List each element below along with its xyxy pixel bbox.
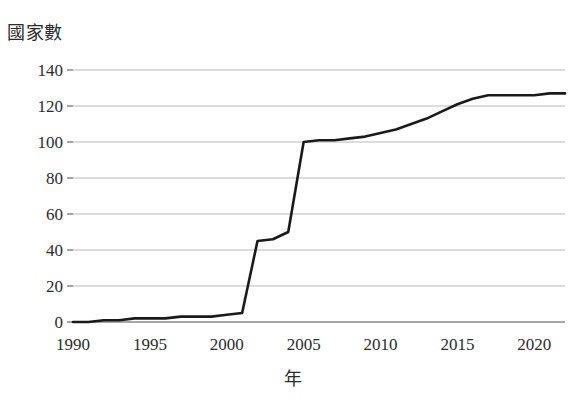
y-tick-label: 0 (11, 314, 63, 331)
x-tick-label: 2010 (341, 336, 421, 353)
x-tick-label: 1990 (33, 336, 113, 353)
x-tick-label: 2015 (417, 336, 497, 353)
line-chart-figure: 國家數 年 020406080100120140 199019952000200… (0, 0, 586, 407)
y-tick-label: 120 (11, 98, 63, 115)
chart-page: 國家數 年 020406080100120140 199019952000200… (0, 0, 586, 407)
y-tick-label: 20 (11, 278, 63, 295)
x-tick-label: 2005 (264, 336, 344, 353)
x-tick-label: 2000 (187, 336, 267, 353)
y-tick-label: 40 (11, 242, 63, 259)
y-tick-label: 100 (11, 134, 63, 151)
y-tick-label: 80 (11, 170, 63, 187)
x-tick-label: 2020 (494, 336, 574, 353)
x-axis-title: 年 (0, 370, 586, 388)
y-tick-label: 60 (11, 206, 63, 223)
y-tick-marks (67, 70, 73, 322)
data-series-line (73, 93, 565, 322)
y-tick-label: 140 (11, 62, 63, 79)
gridlines (73, 70, 565, 286)
x-tick-label: 1995 (110, 336, 190, 353)
y-axis-title: 國家數 (7, 24, 63, 42)
